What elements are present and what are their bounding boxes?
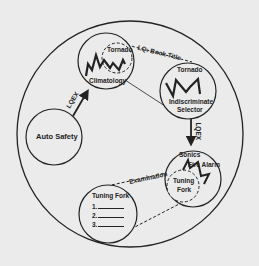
tuning-fork-inner-line2: Fork [177,187,191,194]
sonics-label: Sonics [179,152,200,159]
tornado-inner-label: Tornado [107,47,133,54]
list-item: 1. [92,204,124,211]
list-item-number: 1. [92,203,97,210]
tuning-fork-list-title: Tuning Fork [92,193,129,200]
fire-alarm-label: Fire Alarm [188,162,220,169]
selector-line1: Indiscriminate [169,99,213,106]
tuning-fork-inner-line1: Tuning [173,178,194,185]
selector-line2: Selector [177,107,203,114]
list-item: 2. [92,213,124,220]
tuning-fork-lower-line [131,202,183,229]
list-item: 3. [92,222,124,229]
selector-to-sonics-label: LQEX [195,122,202,140]
blank-rule [98,226,124,227]
blank-rule [98,217,124,218]
tornado-selector-title: Tornado [177,67,203,74]
auto-safety-label: Auto Safety [36,133,78,141]
climatology-label: Climatology [89,78,126,85]
list-item-number: 3. [92,221,97,228]
list-item-number: 2. [92,212,97,219]
blank-rule [98,208,124,209]
concept-diagram: Tornado LQ: Book Title Climatology Torna… [0,0,259,266]
